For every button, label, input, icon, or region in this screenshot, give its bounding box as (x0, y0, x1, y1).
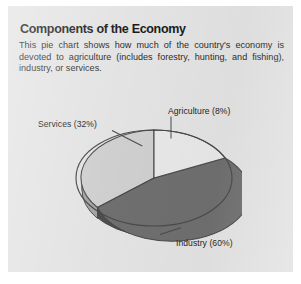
infographic-card: Components of the Economy This pie chart… (8, 6, 293, 272)
pie-chart-graphic (66, 116, 242, 242)
pie-top-face (76, 130, 242, 241)
pie-chart: Agriculture (8%) Services (32%) Industry… (8, 6, 293, 272)
pie-label-industry: Industry (60%) (176, 238, 233, 248)
pie-label-agriculture: Agriculture (8%) (168, 106, 230, 116)
leader-line-agriculture (171, 117, 172, 139)
pie-label-services: Services (32%) (38, 119, 97, 129)
